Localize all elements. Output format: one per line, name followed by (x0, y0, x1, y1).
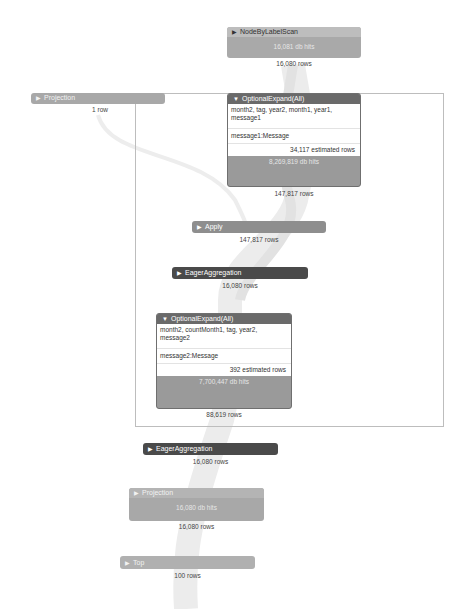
rows-label: 16,080 rows (143, 458, 278, 465)
rows-label: 147,817 rows (192, 236, 326, 243)
expression: message2:Message (157, 349, 291, 364)
expand-triangle-icon[interactable]: ▶ (177, 267, 182, 279)
identifiers: month2, countMonth1, tag, year2, message… (157, 324, 291, 349)
db-hits: 7,700,447 db hits (157, 376, 291, 388)
operator-projection-2[interactable]: ▶Projection 16,080 db hits (129, 488, 264, 521)
operator-name: NodeByLabelScan (240, 28, 298, 35)
collapse-triangle-icon[interactable]: ▼ (162, 314, 168, 324)
collapse-triangle-icon[interactable]: ▼ (233, 94, 239, 104)
estimated-rows: 34,117 estimated rows (228, 144, 360, 156)
expand-triangle-icon[interactable]: ▶ (134, 488, 139, 498)
operator-top[interactable]: ▶Top (120, 556, 255, 569)
operator-name: EagerAggregation (156, 445, 212, 452)
operator-name: Projection (44, 94, 75, 101)
rows-label: 16,080 rows (129, 523, 264, 530)
estimated-rows: 392 estimated rows (157, 364, 291, 376)
identifiers: month2, tag, year2, month1, year1, messa… (228, 104, 360, 129)
expand-triangle-icon[interactable]: ▶ (197, 221, 202, 233)
rows-label: 100 rows (120, 572, 255, 579)
operator-apply[interactable]: ▶Apply (192, 221, 326, 233)
operator-optionalexpand-1[interactable]: ▼OptionalExpand(All) month2, tag, year2,… (227, 93, 361, 187)
expand-triangle-icon[interactable]: ▶ (148, 443, 153, 455)
operator-name: Top (133, 559, 144, 566)
operator-name: Projection (142, 489, 173, 496)
operator-name: OptionalExpand(All) (242, 95, 304, 102)
operator-name: OptionalExpand(All) (171, 315, 233, 322)
rows-label: 16,080 rows (227, 60, 361, 67)
operator-eageraggregation-1[interactable]: ▶EagerAggregation (172, 267, 308, 279)
expression: message1:Message (228, 129, 360, 144)
expand-triangle-icon[interactable]: ▶ (36, 93, 41, 103)
db-hits: 16,081 db hits (227, 37, 361, 57)
db-hits: 8,269,819 db hits (228, 156, 360, 168)
operator-optionalexpand-2[interactable]: ▼OptionalExpand(All) month2, countMonth1… (156, 313, 292, 409)
rows-label: 16,080 rows (172, 282, 308, 289)
operator-name: Apply (205, 223, 223, 230)
rows-label: 1 row (70, 106, 130, 113)
expand-triangle-icon[interactable]: ▶ (125, 557, 130, 569)
operator-nodebylabelscan[interactable]: ▶NodeByLabelScan 16,081 db hits (227, 27, 361, 58)
operator-name: EagerAggregation (185, 269, 241, 276)
rows-label: 147,817 rows (227, 190, 361, 197)
operator-eageraggregation-2[interactable]: ▶EagerAggregation (143, 443, 278, 455)
operator-projection-1[interactable]: ▶Projection (31, 93, 165, 104)
expand-triangle-icon[interactable]: ▶ (232, 27, 237, 37)
db-hits: 16,080 db hits (129, 498, 264, 518)
rows-label: 88,619 rows (156, 411, 292, 418)
